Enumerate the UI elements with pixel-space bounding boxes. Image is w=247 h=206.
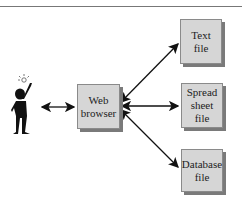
spreadsheet-file-label: Spread sheet file — [187, 86, 218, 125]
web-browser-label: Web browser — [81, 94, 116, 120]
person-with-lightbulb-icon — [8, 74, 38, 140]
database-file-label: Database file — [182, 158, 222, 184]
web-browser-node: Web browser — [77, 84, 120, 129]
text-file-node: Text file — [180, 19, 222, 64]
database-file-node: Database file — [181, 149, 223, 192]
text-file-label: Text file — [191, 29, 210, 55]
spreadsheet-file-node: Spread sheet file — [181, 83, 223, 128]
